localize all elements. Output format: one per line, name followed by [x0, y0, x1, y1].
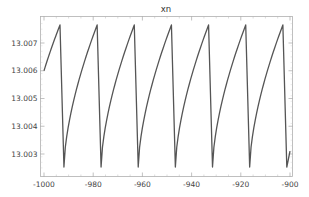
plot-frame — [41, 17, 293, 177]
x-tick-label: -1000 — [33, 180, 55, 189]
chart-title: xn — [161, 4, 171, 14]
y-tick-label: 13.004 — [11, 122, 37, 131]
y-tick-label: 13.007 — [11, 39, 37, 48]
y-tick-label: 13.003 — [11, 150, 37, 159]
x-tick-label: -940 — [183, 180, 200, 189]
x-tick-label: -900 — [281, 180, 298, 189]
y-tick-label: 13.005 — [11, 94, 37, 103]
y-tick-label: 13.006 — [11, 66, 37, 75]
x-tick-label: -980 — [85, 180, 102, 189]
y-axis: 13.00313.00413.00513.00613.007 — [11, 39, 292, 159]
minor-ticks — [41, 17, 293, 177]
chart: xn -1000-980-960-940-920-900 13.00313.00… — [0, 0, 309, 197]
x-tick-label: -920 — [232, 180, 249, 189]
x-tick-label: -960 — [134, 180, 151, 189]
data-line-xn — [44, 25, 290, 167]
